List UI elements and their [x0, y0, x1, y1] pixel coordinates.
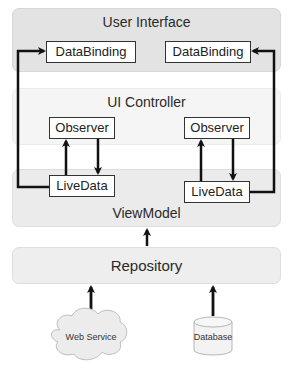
viewmodel-title: ViewModel [13, 205, 280, 221]
livedata-right-node: LiveData [184, 181, 250, 203]
databinding-right-node: DataBinding [165, 41, 251, 63]
web-service-label: Web Service [56, 332, 126, 342]
database-label: Database [192, 332, 234, 342]
repository-layer: Repository [12, 247, 281, 284]
observer-left-node: Observer [49, 117, 115, 139]
ui-controller-title: UI Controller [13, 94, 280, 110]
databinding-left-node: DataBinding [46, 41, 136, 63]
livedata-left-node: LiveData [49, 175, 115, 197]
observer-right-node: Observer [184, 117, 250, 139]
repository-title: Repository [13, 257, 280, 274]
user-interface-title: User Interface [13, 14, 280, 30]
